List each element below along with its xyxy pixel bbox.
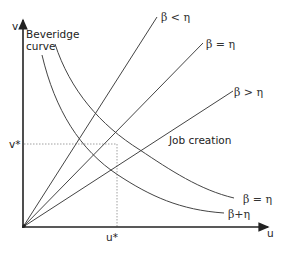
label-beta-greater-eta: β > η — [234, 86, 263, 99]
u-star-label: u* — [106, 231, 118, 243]
job-creation-line-beta-greater-eta — [23, 91, 233, 227]
beveridge-diagram: v u v* u* Beveridge curve Job creation β… — [0, 0, 282, 256]
y-axis-label: v — [12, 20, 18, 32]
origin-dot — [22, 224, 26, 228]
beveridge-label-line2: curve — [26, 40, 55, 52]
label-beta-less-eta: β < η — [161, 11, 190, 24]
v-star-label: v* — [9, 138, 20, 150]
beveridge-label-line1: Beveridge — [26, 28, 79, 40]
beveridge-curve-outer — [55, 44, 234, 198]
label-beveridge-beta-plus-eta: β+η — [228, 208, 250, 221]
label-beta-equal-eta-line: β = η — [206, 38, 235, 51]
job-creation-label: Job creation — [168, 134, 231, 146]
label-beveridge-beta-equal-eta: β = η — [243, 193, 272, 206]
x-axis-label: u — [267, 227, 274, 239]
